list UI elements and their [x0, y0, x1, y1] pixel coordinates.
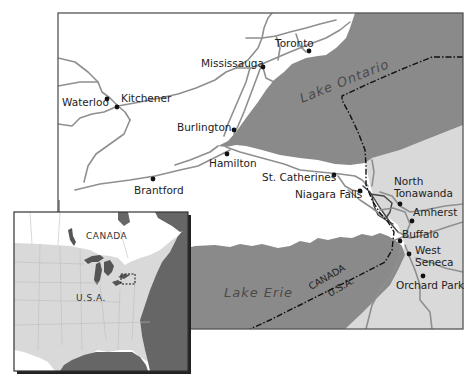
city-label-waterloo: Waterloo	[62, 96, 109, 108]
city-label-amherst: Amherst	[413, 206, 457, 218]
city-label-kitchener: Kitchener	[121, 92, 172, 104]
city-dot-hamilton	[225, 152, 230, 157]
city-label-west-seneca-1: West	[415, 244, 441, 256]
city-label-hamilton: Hamilton	[209, 157, 257, 169]
inset-map: CANADA U.S.A.	[14, 200, 191, 374]
city-label-west-seneca-2: Seneca	[415, 256, 453, 268]
map-figure: Lake Ontario Lake Erie CANADA U.S.A. Tor…	[0, 0, 476, 382]
city-dot-north-tonawanda	[398, 202, 403, 207]
city-label-north-tonawanda-2: Tonawanda	[393, 187, 453, 199]
city-label-burlington: Burlington	[177, 121, 232, 133]
city-dot-orchard-park	[421, 274, 426, 279]
city-label-buffalo: Buffalo	[402, 228, 439, 240]
lake-erie-label: Lake Erie	[224, 285, 293, 300]
city-label-north-tonawanda-1: North	[394, 175, 423, 187]
inset-label-usa: U.S.A.	[76, 293, 106, 303]
city-dot-kitchener	[115, 105, 120, 110]
city-label-orchard-park: Orchard Park	[396, 279, 465, 291]
city-label-mississauga: Mississauga	[201, 57, 264, 69]
city-dot-west-seneca	[407, 252, 412, 257]
city-label-niagara-falls: Niagara Falls	[295, 188, 362, 200]
city-label-toronto: Toronto	[274, 37, 314, 49]
city-label-brantford: Brantford	[134, 184, 184, 196]
inset-label-canada: CANADA	[86, 231, 128, 241]
city-dot-amherst	[410, 219, 415, 224]
city-dot-brantford	[151, 177, 156, 182]
city-dot-toronto	[307, 49, 312, 54]
city-dot-burlington	[232, 128, 237, 133]
city-label-st-catherines: St. Catherines	[262, 171, 336, 183]
